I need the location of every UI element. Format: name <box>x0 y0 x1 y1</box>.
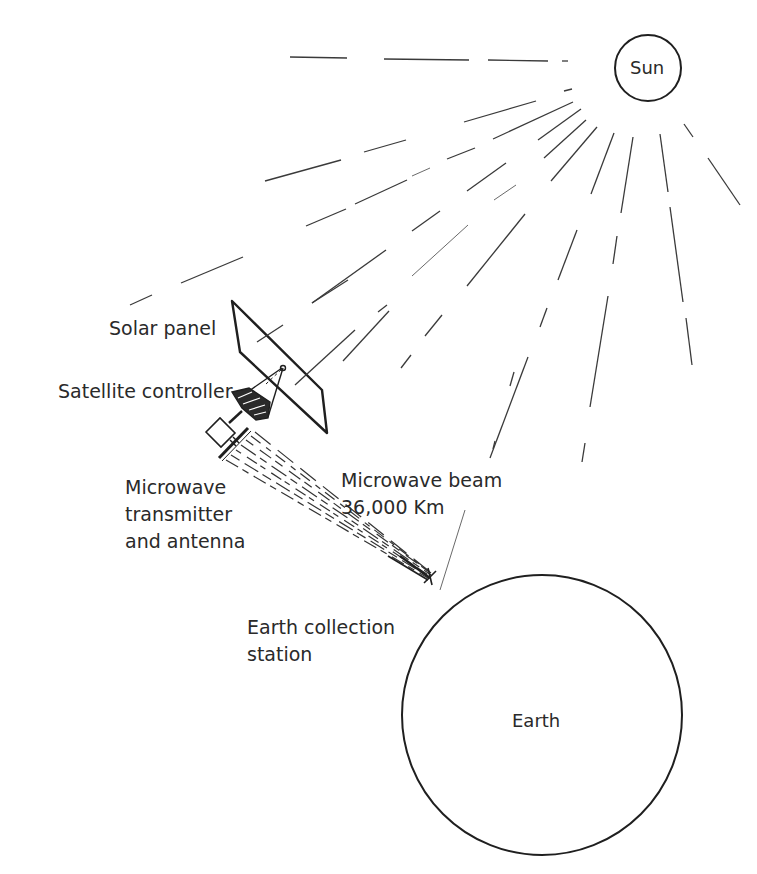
satellite-controller <box>229 366 286 424</box>
microwave-beam-label-line1: Microwave beam <box>341 468 502 493</box>
microwave-transmitter <box>206 418 251 461</box>
transmitter-label-line3: and antenna <box>125 529 245 554</box>
transmitter-label-line1: Microwave <box>125 475 226 500</box>
solar-panel-shape <box>232 301 327 433</box>
solar-panel-label: Solar panel <box>109 316 216 341</box>
earth-collection-station-label-line1: Earth collection <box>247 615 395 640</box>
microwave-beam-distance-label: 36,000 Km <box>341 495 445 520</box>
earth-collection-station-label-line2: station <box>247 642 312 667</box>
satellite-controller-label: Satellite controller <box>58 379 233 404</box>
transmitter-label-line2: transmitter <box>125 502 232 527</box>
sun-label: Sun <box>630 55 664 80</box>
solar-power-satellite-diagram <box>0 0 757 874</box>
earth-label: Earth <box>512 708 560 733</box>
